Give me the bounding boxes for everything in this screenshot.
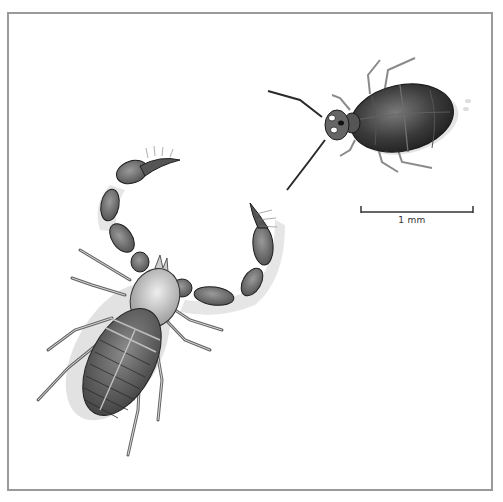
scale-bar-label: 1 mm <box>392 215 432 225</box>
scale-bar <box>361 206 473 213</box>
insect <box>268 58 471 190</box>
pseudoscorpion <box>38 146 285 455</box>
illustration <box>0 0 503 502</box>
